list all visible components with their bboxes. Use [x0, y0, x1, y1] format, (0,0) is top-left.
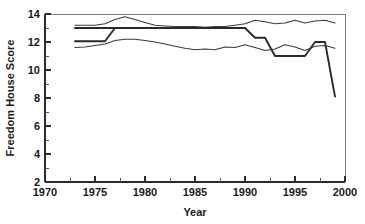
y-tick-label: 12 [28, 36, 40, 48]
y-axis-ticks [45, 14, 51, 182]
x-tick-label: 1990 [233, 186, 257, 198]
x-tick-label: 1995 [283, 186, 307, 198]
y-tick-labels: 14 12 10 8 6 4 2 [28, 8, 41, 188]
series-line-lower-thick-median [75, 28, 245, 41]
data-series-layer [75, 17, 335, 97]
y-tick-label: 8 [34, 92, 40, 104]
y-tick-label: 10 [28, 64, 40, 76]
x-axis-ticks [45, 176, 345, 182]
y-axis-title: Freedom House Score [4, 40, 16, 157]
x-tick-label: 2000 [333, 186, 357, 198]
chart-canvas: 14 12 10 8 6 4 2 1970 1975 1980 1985 199… [0, 0, 365, 224]
x-axis-title: Year [183, 206, 207, 218]
series-line-upper-thin-band [75, 17, 335, 28]
series-line-upper-thick-median [75, 28, 335, 97]
x-tick-labels: 1970 1975 1980 1985 1990 1995 2000 [33, 186, 357, 198]
x-tick-label: 1975 [83, 186, 107, 198]
x-tick-label: 1980 [133, 186, 157, 198]
series-line-lower-thin-band [75, 39, 335, 50]
x-tick-label: 1985 [183, 186, 207, 198]
freedom-house-score-chart: 14 12 10 8 6 4 2 1970 1975 1980 1985 199… [0, 0, 365, 224]
y-tick-label: 4 [34, 148, 41, 160]
x-tick-label: 1970 [33, 186, 57, 198]
plot-frame [45, 14, 345, 182]
y-tick-label: 14 [28, 8, 41, 20]
y-tick-label: 6 [34, 120, 40, 132]
